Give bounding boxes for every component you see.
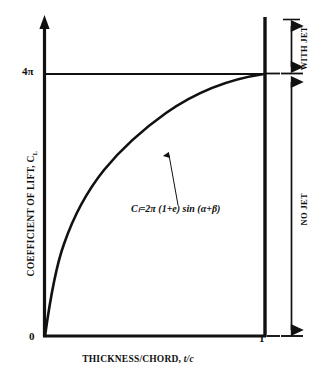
x-axis-title: THICKNESS/CHORD, t/c bbox=[0, 355, 276, 365]
x-axis-title-symbol: t/c bbox=[184, 354, 194, 364]
lift-equation-annotation: Cₗ=2π (1+e) sin (α+β) bbox=[131, 204, 220, 214]
y-axis-title-subscript: L bbox=[31, 151, 38, 156]
lift-coefficient-diagram: 4π 0 1 COEFFICIENT OF LIFT, CL THICKNESS… bbox=[0, 0, 328, 383]
y-axis-arrowhead bbox=[39, 15, 49, 29]
equation-leader-line bbox=[169, 155, 178, 205]
x-axis-title-text: THICKNESS/CHORD, bbox=[82, 354, 184, 364]
y-axis-tick-label-zero: 0 bbox=[29, 331, 35, 342]
y-axis-title: COEFFICIENT OF LIFT, CL bbox=[27, 119, 38, 309]
with-jet-bracket-label: WITH JET bbox=[300, 18, 309, 78]
y-axis-tick-label-4pi: 4π bbox=[22, 66, 34, 77]
no-jet-bracket-label: NO JET bbox=[300, 180, 309, 238]
x-axis-tick-label-one: 1 bbox=[259, 333, 265, 344]
diagram-canvas bbox=[0, 0, 328, 383]
y-axis-title-text: COEFFICIENT OF LIFT, C bbox=[26, 155, 36, 276]
